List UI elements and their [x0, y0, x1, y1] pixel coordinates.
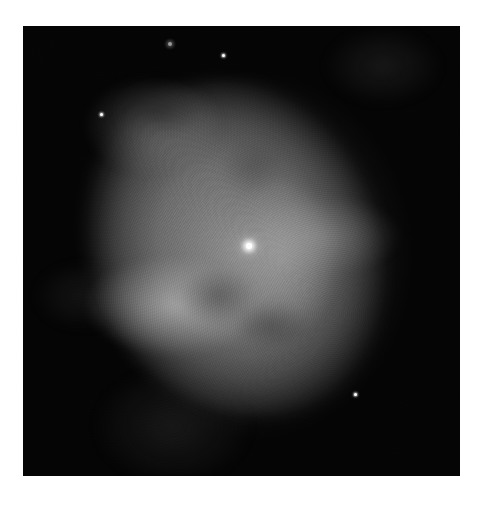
nebula-image — [23, 26, 460, 476]
star-top-bright — [222, 54, 225, 57]
central-star — [246, 243, 252, 249]
star-top-faint — [168, 42, 172, 46]
image-grain — [23, 26, 460, 476]
star-lower-right — [354, 393, 357, 396]
star-upper-left — [100, 113, 103, 116]
